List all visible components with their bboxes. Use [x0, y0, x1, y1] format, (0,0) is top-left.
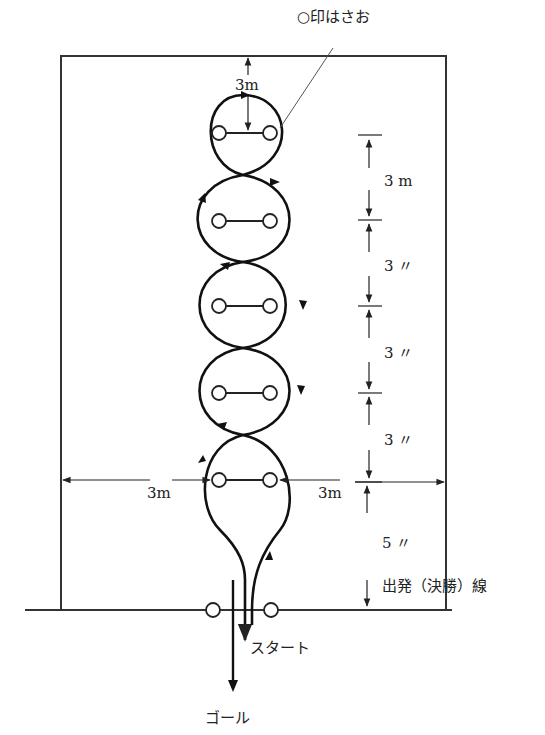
goal-label: ゴール	[205, 709, 250, 727]
goal-arrow-icon	[228, 680, 238, 692]
course-diagram: ○印はさお 3m 3 m 3 〃 3 〃 3 〃 5 〃 3m 3m 出発（決勝…	[0, 0, 545, 735]
start-label: スタート	[250, 639, 310, 657]
spacing-label-3: 3 〃	[384, 344, 413, 362]
course-boundary	[61, 56, 446, 610]
weaving-path	[198, 95, 290, 640]
direction-arrows	[198, 91, 307, 560]
vertical-dimensions	[355, 135, 382, 606]
left-side-label: 3m	[147, 484, 171, 502]
top-gap-label: 3m	[235, 76, 259, 94]
spacing-label-2: 3 〃	[384, 257, 413, 275]
start-line-label: 出発（決勝）線	[382, 577, 487, 595]
legend-leader	[280, 48, 333, 128]
spacing-label-4: 3 〃	[384, 431, 413, 449]
spacing-label-1: 3 m	[384, 172, 413, 190]
poles	[206, 126, 278, 617]
legend-label: ○印はさお	[297, 8, 370, 26]
right-side-label: 3m	[318, 484, 342, 502]
spacing-label-5: 5 〃	[382, 534, 411, 552]
